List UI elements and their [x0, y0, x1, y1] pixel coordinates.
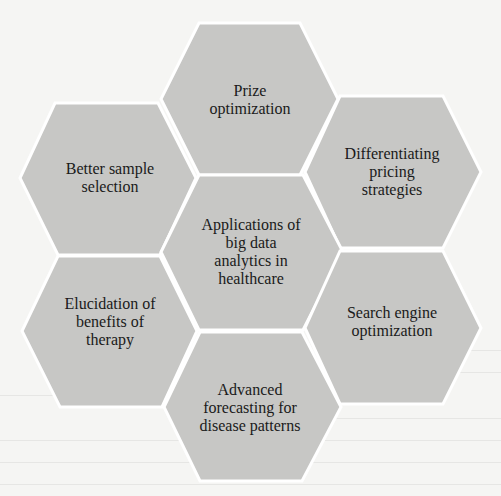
hex-label-upper-right: Differentiating pricing strategies	[312, 130, 472, 214]
hex-label-lower-right: Search engine optimization	[312, 292, 472, 352]
hex-label-bottom: Advanced forecasting for disease pattern…	[170, 366, 330, 450]
diagram-canvas: Prize optimization Differentiating prici…	[0, 0, 501, 496]
hex-label-upper-left: Better sample selection	[30, 150, 190, 206]
hex-label-top: Prize optimization	[170, 60, 330, 140]
hex-label-center: Applications of big data analytics in he…	[170, 204, 332, 300]
hex-label-lower-left: Elucidation of benefits of therapy	[30, 280, 190, 364]
